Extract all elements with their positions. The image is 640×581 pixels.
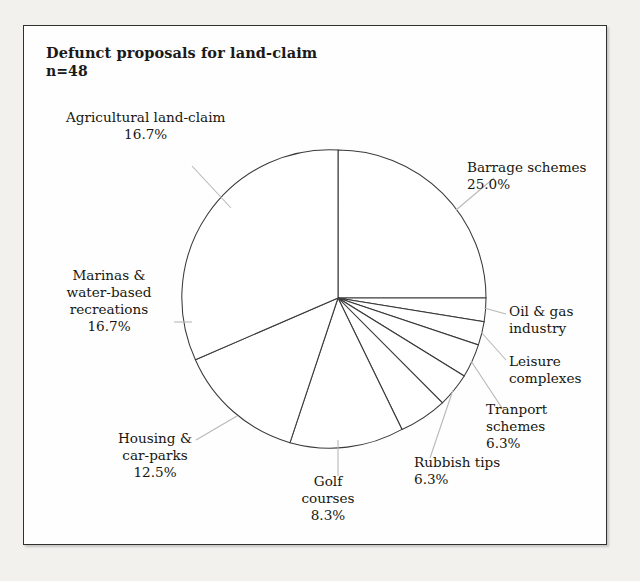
- pie-label-agricultural-text: Agricultural land-claim: [66, 109, 225, 125]
- pie-label-leisure-complexes: Leisure complexes: [509, 353, 581, 387]
- pie-label-golf-line2: courses: [301, 490, 354, 506]
- pie-label-oilgas-line2: industry: [509, 320, 566, 336]
- leader-line-leisure: [481, 332, 506, 360]
- leader-line-agricultural: [192, 166, 231, 208]
- pie-label-marinas-line1: Marinas &: [72, 267, 145, 283]
- pie-label-housing-pct: 12.5%: [80, 464, 230, 481]
- pie-label-barrage-text: Barrage schemes: [467, 159, 587, 175]
- pie-label-rubbish-tips: Rubbish tips 6.3%: [414, 454, 500, 488]
- pie-label-housing-line1: Housing &: [118, 430, 192, 446]
- pie-label-agricultural: Agricultural land-claim 16.7%: [66, 109, 225, 143]
- pie-label-housing-line2: car-parks: [122, 447, 187, 463]
- pie-label-transport-line2: schemes: [486, 418, 545, 434]
- pie-label-rubbish-line1: Rubbish tips: [414, 454, 500, 470]
- pie-label-transport-line1: Tranport: [486, 401, 547, 417]
- pie-slice-group: [182, 150, 486, 448]
- pie-label-leisure-line2: complexes: [509, 370, 581, 386]
- chart-figure-frame: Defunct proposals for land-claim n=48: [23, 25, 607, 545]
- pie-label-marinas-water-based-recreations: Marinas & water-based recreations 16.7%: [29, 267, 189, 336]
- pie-label-agricultural-pct: 16.7%: [66, 126, 225, 143]
- pie-label-golf-line1: Golf: [314, 473, 342, 489]
- pie-label-oilgas-line1: Oil & gas: [509, 303, 573, 319]
- pie-label-golf-courses: Golf courses 8.3%: [282, 473, 374, 524]
- pie-label-golf-pct: 8.3%: [282, 507, 374, 524]
- pie-label-barrage-schemes: Barrage schemes 25.0%: [467, 159, 587, 193]
- pie-label-oil-gas-industry: Oil & gas industry: [509, 303, 573, 337]
- pie-label-leisure-line1: Leisure: [509, 353, 561, 369]
- pie-label-marinas-line3: recreations: [70, 301, 149, 317]
- pie-label-transport-pct: 6.3%: [486, 435, 547, 452]
- leader-line-oil-gas: [484, 308, 506, 314]
- pie-label-barrage-pct: 25.0%: [467, 176, 587, 193]
- pie-label-marinas-pct: 16.7%: [29, 318, 189, 335]
- pie-label-marinas-line2: water-based: [67, 284, 152, 300]
- pie-label-rubbish-pct: 6.3%: [414, 471, 500, 488]
- pie-label-housing-car-parks: Housing & car-parks 12.5%: [80, 430, 230, 481]
- pie-slice-barrage: [338, 150, 486, 298]
- pie-label-transport-schemes: Tranport schemes 6.3%: [486, 401, 547, 452]
